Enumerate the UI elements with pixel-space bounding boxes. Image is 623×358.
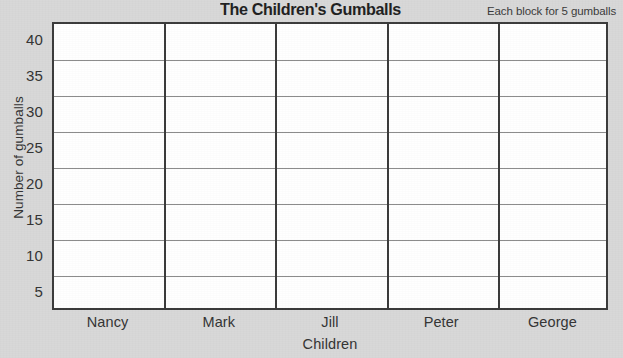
plot-block[interactable] bbox=[385, 273, 495, 309]
plot-block[interactable] bbox=[496, 166, 606, 202]
y-tick-label: 25 bbox=[26, 138, 43, 158]
plot-block[interactable] bbox=[54, 202, 164, 238]
x-axis-title: Children bbox=[52, 334, 608, 354]
plot-block[interactable] bbox=[164, 60, 274, 96]
plot-block[interactable] bbox=[54, 166, 164, 202]
y-tick-label: 20 bbox=[26, 174, 43, 194]
chart-header: The Children's Gumballs Each block for 5… bbox=[0, 0, 623, 22]
plot-column-nancy[interactable] bbox=[54, 24, 164, 308]
x-tick-label: George bbox=[497, 312, 608, 334]
y-tick-label: 35 bbox=[26, 66, 43, 86]
plot-block[interactable] bbox=[164, 166, 274, 202]
plot-block[interactable] bbox=[385, 237, 495, 273]
plot-column-peter[interactable] bbox=[385, 24, 495, 308]
plot-block[interactable] bbox=[275, 131, 385, 167]
plot-block[interactable] bbox=[54, 273, 164, 309]
plot-block[interactable] bbox=[496, 24, 606, 60]
y-tick-label: 40 bbox=[26, 30, 43, 50]
plot-block[interactable] bbox=[275, 60, 385, 96]
y-tick-label: 5 bbox=[34, 282, 43, 302]
chart-key-note: Each block for 5 gumballs bbox=[487, 3, 616, 19]
plot-block[interactable] bbox=[164, 131, 274, 167]
chart-title: The Children's Gumballs bbox=[220, 0, 401, 20]
plot-block[interactable] bbox=[275, 166, 385, 202]
plot-block[interactable] bbox=[54, 60, 164, 96]
x-tick-label: Jill bbox=[274, 312, 385, 334]
plot-block[interactable] bbox=[385, 202, 495, 238]
plot-block[interactable] bbox=[275, 95, 385, 131]
plot-block[interactable] bbox=[385, 131, 495, 167]
plot-block[interactable] bbox=[496, 60, 606, 96]
y-tick-label: 10 bbox=[26, 246, 43, 266]
plot-block[interactable] bbox=[496, 131, 606, 167]
plot-block[interactable] bbox=[496, 202, 606, 238]
plot-block[interactable] bbox=[164, 273, 274, 309]
x-tick-label: Mark bbox=[163, 312, 274, 334]
x-axis-tick-labels: NancyMarkJillPeterGeorge bbox=[52, 312, 608, 334]
plot-block[interactable] bbox=[385, 166, 495, 202]
y-tick-label: 30 bbox=[26, 102, 43, 122]
plot-column-jill[interactable] bbox=[275, 24, 385, 308]
plot-block[interactable] bbox=[54, 131, 164, 167]
plot-block[interactable] bbox=[164, 202, 274, 238]
plot-block[interactable] bbox=[275, 202, 385, 238]
plot-block[interactable] bbox=[385, 24, 495, 60]
plot-block[interactable] bbox=[275, 24, 385, 60]
plot-block[interactable] bbox=[496, 273, 606, 309]
plot-block[interactable] bbox=[385, 95, 495, 131]
y-axis-tick-labels: 403530252015105 bbox=[0, 22, 48, 310]
plot-block[interactable] bbox=[54, 95, 164, 131]
plot-block[interactable] bbox=[385, 60, 495, 96]
x-tick-label: Nancy bbox=[52, 312, 163, 334]
plot-column-mark[interactable] bbox=[164, 24, 274, 308]
plot-block[interactable] bbox=[54, 237, 164, 273]
plot-block[interactable] bbox=[275, 237, 385, 273]
y-tick-label: 15 bbox=[26, 210, 43, 230]
plot-block[interactable] bbox=[496, 95, 606, 131]
plot-block[interactable] bbox=[54, 24, 164, 60]
plot-area[interactable] bbox=[52, 22, 608, 310]
plot-column-george[interactable] bbox=[496, 24, 606, 308]
plot-block[interactable] bbox=[164, 237, 274, 273]
plot-block[interactable] bbox=[164, 24, 274, 60]
plot-block[interactable] bbox=[496, 237, 606, 273]
plot-block[interactable] bbox=[164, 95, 274, 131]
x-tick-label: Peter bbox=[386, 312, 497, 334]
plot-block[interactable] bbox=[275, 273, 385, 309]
plot-columns bbox=[54, 24, 606, 308]
